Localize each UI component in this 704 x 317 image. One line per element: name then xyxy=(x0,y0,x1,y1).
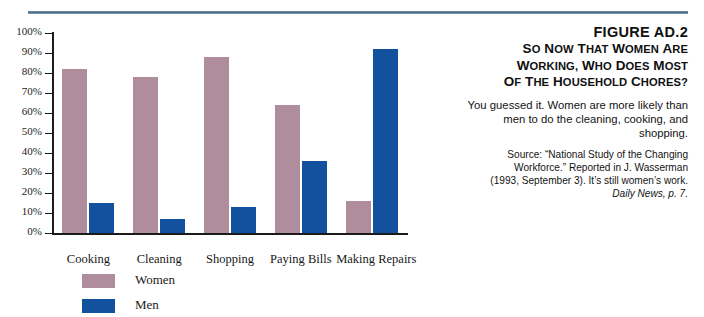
category-label-cooking: Cooking xyxy=(53,252,124,267)
figure-title-line-1: SO NOW THAT WOMEN ARE xyxy=(458,41,688,58)
x-axis-line xyxy=(52,233,408,235)
bar-men-making-repairs xyxy=(373,49,398,233)
source-line-1: Source: “National Study of the Changing xyxy=(458,148,688,161)
y-tick-mark xyxy=(45,33,52,34)
y-tick-mark xyxy=(45,153,52,154)
figure-title: SO NOW THAT WOMEN ARE WORKING, WHO DOES … xyxy=(458,41,688,91)
y-tick-mark xyxy=(45,53,52,54)
category-label-shopping: Shopping xyxy=(195,252,266,267)
source-line-4: Daily News, p. 7. xyxy=(458,187,688,200)
y-tick-mark xyxy=(45,233,52,234)
bar-women-cleaning xyxy=(133,77,158,233)
legend-label-men: Men xyxy=(135,297,159,313)
figure-source: Source: “National Study of the Changing … xyxy=(458,148,688,200)
bar-men-paying-bills xyxy=(302,161,327,233)
y-tick-label: 40% xyxy=(22,145,42,157)
category-label-cleaning: Cleaning xyxy=(124,252,195,267)
y-tick-mark xyxy=(45,93,52,94)
bar-men-cooking xyxy=(89,203,114,233)
y-tick-mark xyxy=(45,173,52,174)
y-tick-label: 90% xyxy=(22,45,42,57)
bar-men-shopping xyxy=(231,207,256,233)
figure-title-line-2: WORKING, WHO DOES MOST xyxy=(458,58,688,75)
y-tick-label: 50% xyxy=(22,125,42,137)
bar-women-making-repairs xyxy=(346,201,371,233)
y-tick-mark xyxy=(45,193,52,194)
y-tick-label: 20% xyxy=(22,185,42,197)
y-tick-label: 70% xyxy=(22,85,42,97)
y-tick-label: 0% xyxy=(27,225,42,237)
legend-swatch-women-icon xyxy=(82,274,115,288)
source-line-3: (1993, September 3). It’s still women’s … xyxy=(458,174,688,187)
y-tick-label: 80% xyxy=(22,65,42,77)
category-label-paying-bills: Paying Bills xyxy=(265,252,336,267)
source-line-2: Workforce.” Reported in J. Wasserman xyxy=(458,161,688,174)
y-tick-mark xyxy=(45,73,52,74)
figure-caption: FIGURE AD.2 SO NOW THAT WOMEN ARE WORKIN… xyxy=(458,24,688,200)
bar-women-cooking xyxy=(62,69,87,233)
y-tick-label: 60% xyxy=(22,105,42,117)
legend-label-women: Women xyxy=(135,272,175,288)
y-tick-label: 30% xyxy=(22,165,42,177)
y-tick-mark xyxy=(45,133,52,134)
y-tick-label: 100% xyxy=(16,25,42,37)
y-tick-mark xyxy=(45,113,52,114)
y-tick-mark xyxy=(45,213,52,214)
figure-body-text: You guessed it. Women are more likely th… xyxy=(458,98,688,140)
figure-title-line-3: OF THE HOUSEHOLD CHORES? xyxy=(458,74,688,91)
bar-chart: CookingCleaningShoppingPaying BillsMakin… xyxy=(0,20,430,280)
plot-area: CookingCleaningShoppingPaying BillsMakin… xyxy=(53,33,407,233)
header-rule xyxy=(28,11,688,14)
bar-women-shopping xyxy=(204,57,229,233)
category-label-making-repairs: Making Repairs xyxy=(336,252,407,267)
bar-women-paying-bills xyxy=(275,105,300,233)
figure-number: FIGURE AD.2 xyxy=(458,24,688,40)
y-tick-label: 10% xyxy=(22,205,42,217)
legend-swatch-men-icon xyxy=(82,299,115,313)
bar-men-cleaning xyxy=(160,219,185,233)
